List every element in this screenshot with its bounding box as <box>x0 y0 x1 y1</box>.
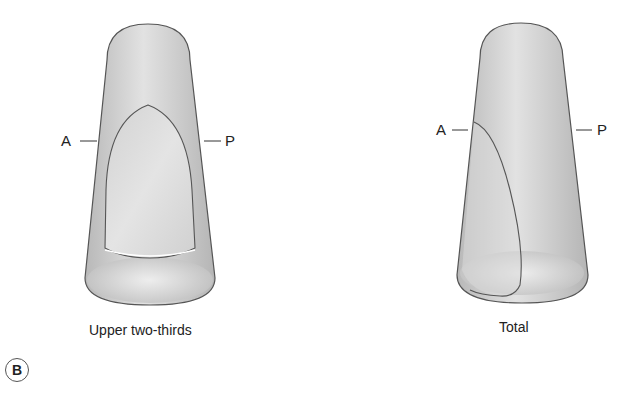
caption-upper-two-thirds: Upper two-thirds <box>89 323 192 337</box>
root-diagram-total <box>452 23 592 303</box>
anterior-label-right: A <box>436 122 446 137</box>
panel-label-badge: B <box>5 358 29 382</box>
root-diagram-upper-two-thirds <box>80 24 221 305</box>
caption-total: Total <box>499 320 529 334</box>
posterior-label-left: P <box>225 133 235 148</box>
diagram-canvas <box>0 0 618 406</box>
root-base-ellipse <box>87 257 213 303</box>
anterior-label-left: A <box>61 133 71 148</box>
panel-label: B <box>12 362 22 378</box>
posterior-label-right: P <box>597 122 607 137</box>
